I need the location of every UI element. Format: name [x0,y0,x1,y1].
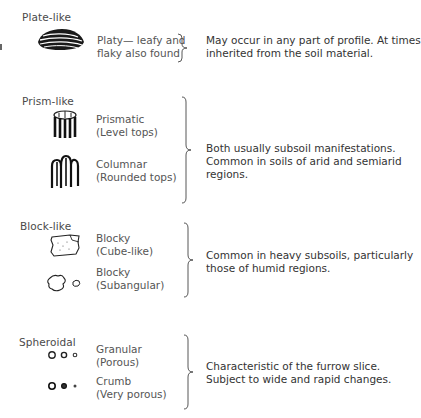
prism-like-description: Both usually subsoil manifestations. Com… [206,142,402,181]
description-line: Characteristic of the furrow slice. [206,360,391,373]
prismatic-label: Prismatic (Level tops) [96,113,158,139]
label-line: flaky also found [97,47,185,60]
label-line: (Porous) [96,356,142,369]
brace-icon [180,96,196,204]
description-line: inherited from the soil material. [206,47,421,60]
crumb-structure-icon [46,380,82,392]
label-line: (Subangular) [96,279,164,292]
description-line: Subject to wide and rapid changes. [206,373,391,386]
label-line: Columnar [96,158,177,171]
platy-structure-icon [34,26,86,52]
columnar-structure-icon [48,150,80,190]
margin-mark [0,44,2,50]
spheroidal-description: Characteristic of the furrow slice. Subj… [206,360,391,386]
platy-label: Platy— leafy and flaky also found [97,34,185,60]
label-line: Crumb [96,375,167,388]
blocky-subangular-structure-icon [45,273,85,293]
crumb-label: Crumb (Very porous) [96,375,167,401]
description-line: Common in soils of arid and semiarid [206,155,402,168]
description-line: those of humid regions. [206,262,413,275]
category-spheroidal: Spheroidal [19,336,76,348]
brace-icon [176,33,192,63]
label-line: (Very porous) [96,388,167,401]
label-line: Prismatic [96,113,158,126]
label-line: Blocky [96,232,153,245]
description-line: regions. [206,168,402,181]
brace-icon [182,222,198,298]
description-line: May occur in any part of profile. At tim… [206,34,421,47]
label-line: Granular [96,343,142,356]
label-line: (Level tops) [96,126,158,139]
label-line: Platy— leafy and [97,34,185,47]
blocky-cube-structure-icon [48,232,82,258]
category-prism-like: Prism-like [22,95,74,107]
prismatic-structure-icon [51,110,79,140]
plate-like-description: May occur in any part of profile. At tim… [206,34,421,60]
granular-label: Granular (Porous) [96,343,142,369]
description-line: Both usually subsoil manifestations. [206,142,402,155]
granular-structure-icon [46,349,82,361]
label-line: (Cube-like) [96,245,153,258]
columnar-label: Columnar (Rounded tops) [96,158,177,184]
block-like-description: Common in heavy subsoils, particularly t… [206,249,413,275]
label-line: (Rounded tops) [96,171,177,184]
category-block-like: Block-like [20,220,71,232]
description-line: Common in heavy subsoils, particularly [206,249,413,262]
label-line: Blocky [96,266,164,279]
brace-icon [182,334,198,410]
blocky-cube-label: Blocky (Cube-like) [96,232,153,258]
blocky-subangular-label: Blocky (Subangular) [96,266,164,292]
category-plate-like: Plate-like [22,11,71,23]
